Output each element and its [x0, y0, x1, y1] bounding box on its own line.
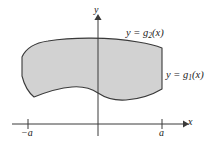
figure-canvas: y = g2(x) y = g1(x) y x −a a	[0, 0, 209, 150]
label-lower-curve-suffix: (x)	[192, 69, 204, 80]
tick-label-negative-a: −a	[21, 128, 33, 138]
x-axis-label: x	[188, 117, 192, 127]
y-axis-label: y	[94, 5, 98, 15]
tick-label-positive-a: a	[159, 128, 164, 138]
label-upper-curve-prefix: y = g	[126, 27, 148, 38]
label-upper-curve-suffix: (x)	[152, 27, 164, 38]
shaded-region-path	[22, 38, 162, 100]
label-lower-curve-prefix: y = g	[166, 69, 188, 80]
label-upper-curve: y = g2(x)	[126, 28, 164, 40]
label-lower-curve: y = g1(x)	[166, 70, 204, 82]
